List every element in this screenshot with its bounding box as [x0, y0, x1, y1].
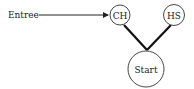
node-ch: CH [110, 5, 130, 25]
diagram: Entree CH HS Start [0, 0, 194, 89]
edge-hs-start [147, 25, 171, 50]
node-start-label: Start [134, 65, 157, 75]
node-start: Start [128, 51, 164, 87]
node-hs: HS [164, 5, 185, 26]
diagram-canvas: Entree CH HS Start [0, 0, 194, 89]
node-ch-label: CH [113, 11, 128, 21]
edge-ch-start [124, 25, 147, 50]
entry-label: Entree [8, 10, 39, 20]
node-hs-label: HS [167, 11, 181, 21]
